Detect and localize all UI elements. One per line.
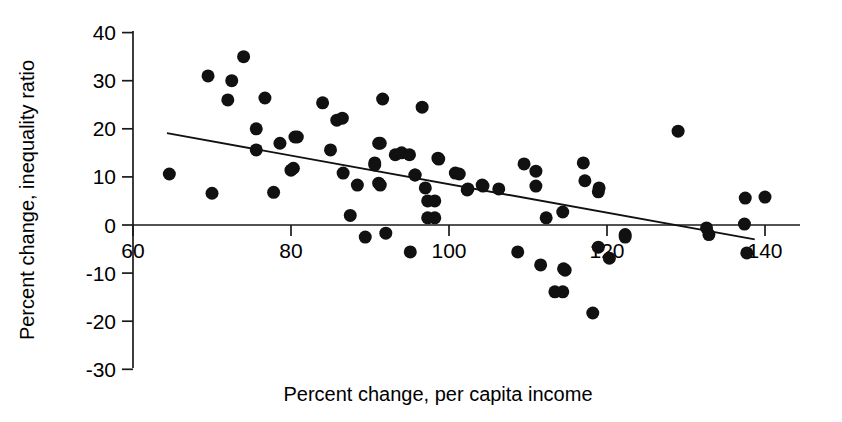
- y-tick-label: -20: [86, 310, 116, 333]
- data-point: [556, 206, 569, 219]
- data-point: [592, 241, 605, 254]
- data-point: [258, 92, 271, 105]
- data-point: [428, 194, 441, 207]
- data-point: [267, 186, 280, 199]
- data-point: [359, 231, 372, 244]
- data-point: [672, 125, 685, 138]
- data-point: [374, 137, 387, 150]
- data-point: [273, 137, 286, 150]
- y-axis-ticks: [122, 33, 133, 370]
- data-point: [603, 252, 616, 265]
- data-point: [250, 122, 263, 135]
- data-point: [518, 157, 531, 170]
- y-tick-label: 40: [93, 21, 116, 44]
- data-point: [529, 165, 542, 178]
- data-point: [376, 92, 389, 105]
- data-point: [416, 101, 429, 114]
- data-point: [619, 231, 632, 244]
- data-point: [344, 209, 357, 222]
- data-point-group: [163, 50, 772, 319]
- data-point: [419, 181, 432, 194]
- data-point: [738, 218, 751, 231]
- data-point: [316, 96, 329, 109]
- data-point: [379, 227, 392, 240]
- data-point: [593, 181, 606, 194]
- data-point: [740, 246, 753, 259]
- data-point: [202, 69, 215, 82]
- y-tick-label: 10: [93, 165, 116, 188]
- data-point: [237, 50, 250, 63]
- data-point: [221, 93, 234, 106]
- y-axis-tick-labels: 403020100-10-20-30: [86, 21, 116, 381]
- x-axis-tick-labels: 6080100120140: [121, 239, 782, 262]
- data-point: [225, 74, 238, 87]
- data-point: [428, 211, 441, 224]
- y-tick-label: -10: [86, 262, 116, 285]
- x-tick-label: 100: [431, 239, 466, 262]
- data-point: [556, 285, 569, 298]
- data-point: [577, 156, 590, 169]
- data-point: [534, 258, 547, 271]
- data-point: [206, 187, 219, 200]
- y-tick-label: -30: [86, 358, 116, 381]
- data-point: [291, 130, 304, 143]
- y-tick-label: 20: [93, 117, 116, 140]
- data-point: [374, 179, 387, 192]
- x-axis-title: Percent change, per capita income: [283, 383, 592, 405]
- data-point: [163, 168, 176, 181]
- data-point: [529, 180, 542, 193]
- y-axis-title: Percent change, inequality ratio: [16, 60, 38, 340]
- data-point: [287, 162, 300, 175]
- scatter-plot-figure: 403020100-10-20-30 6080100120140 Percent…: [0, 0, 842, 422]
- x-tick-label: 60: [121, 239, 144, 262]
- data-point: [403, 148, 416, 161]
- plot-canvas: 403020100-10-20-30 6080100120140 Percent…: [0, 0, 842, 422]
- y-tick-label: 30: [93, 69, 116, 92]
- data-point: [540, 211, 553, 224]
- data-point: [337, 167, 350, 180]
- data-point: [586, 307, 599, 320]
- data-point: [739, 192, 752, 205]
- data-point: [578, 174, 591, 187]
- data-point: [404, 245, 417, 258]
- data-point: [453, 168, 466, 181]
- y-tick-label: 0: [104, 214, 116, 237]
- regression-line: [167, 133, 755, 239]
- x-axis-ticks: [133, 225, 765, 236]
- data-point: [511, 245, 524, 258]
- data-point: [324, 143, 337, 156]
- data-point: [559, 264, 572, 277]
- data-point: [432, 153, 445, 166]
- data-point: [336, 112, 349, 125]
- data-point: [759, 191, 772, 204]
- x-tick-label: 80: [279, 239, 302, 262]
- data-point: [351, 179, 364, 192]
